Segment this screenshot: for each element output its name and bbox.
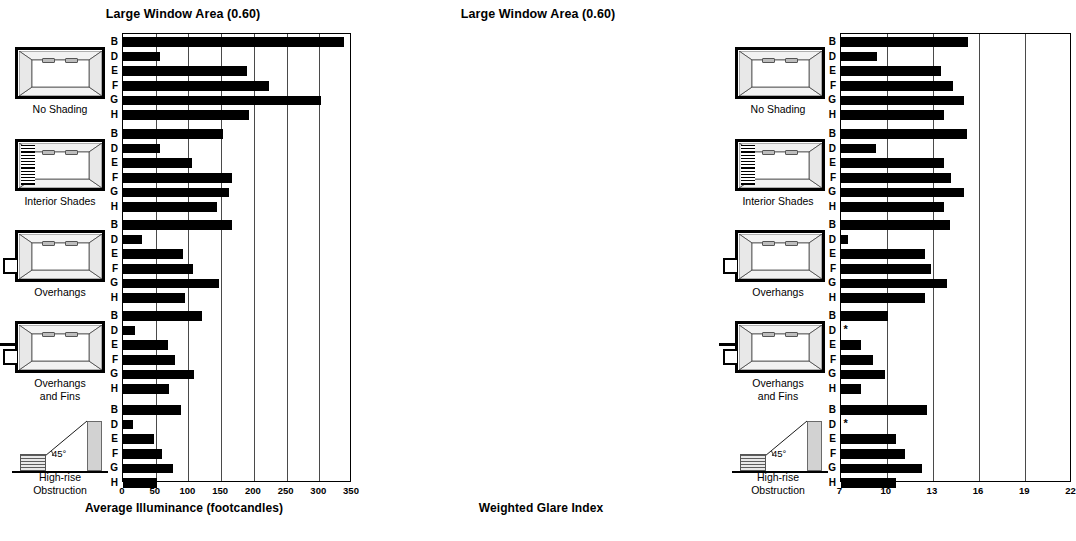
bar (841, 405, 927, 415)
category-label-d: D (104, 324, 118, 335)
chart-title-left: Large Window Area (0.60) (28, 7, 338, 21)
x-axis-tick: 300 (310, 485, 326, 496)
bar (841, 144, 876, 154)
bar (841, 81, 953, 91)
category-label-d: D (104, 142, 118, 153)
category-label-b: B (104, 310, 118, 321)
bar (841, 464, 923, 474)
overhang-icon (723, 349, 737, 365)
bar (123, 202, 217, 212)
room-plan-overhangs-fins-icon (735, 321, 825, 373)
illuminance-chart-panel: Large Window Area (0.60) Average Illumin… (0, 0, 366, 541)
group-label: No Shading (0, 103, 120, 116)
bar (123, 235, 142, 245)
category-label-b: B (104, 219, 118, 230)
x-axis-tick: 16 (973, 485, 984, 496)
bar (841, 52, 878, 62)
chart-title-right: Large Window Area (0.60) (378, 7, 698, 21)
bar (123, 370, 194, 380)
group-label-line: Overhangs (0, 377, 120, 390)
group-label-line: and Fins (718, 390, 838, 403)
interior-shade-hatch-icon (741, 145, 755, 185)
missing-data-marker: * (844, 323, 848, 335)
x-axis-tick: 250 (278, 485, 294, 496)
group-label-line: Overhangs (718, 377, 838, 390)
category-label-f: F (104, 262, 118, 273)
category-label-b: B (104, 128, 118, 139)
fin-icon (0, 343, 17, 346)
bar (123, 449, 162, 459)
bar (841, 110, 944, 120)
category-label-e: E (104, 65, 118, 76)
bar (123, 264, 193, 274)
category-label-b: B (104, 404, 118, 415)
x-axis-tick: 13 (927, 485, 938, 496)
category-label-b: B (822, 128, 836, 139)
bar (841, 355, 873, 365)
category-label-b: B (822, 219, 836, 230)
bar (123, 326, 135, 336)
group-label-line: High-rise (718, 471, 838, 484)
bar (841, 384, 861, 394)
category-label-e: E (104, 248, 118, 259)
overhang-icon (3, 258, 17, 274)
category-label-b: B (822, 36, 836, 47)
bar (123, 188, 229, 198)
group-label-line: Obstruction (718, 484, 838, 497)
x-axis-tick: 10 (880, 485, 891, 496)
overhang-icon (3, 349, 17, 365)
bar (841, 370, 886, 380)
gridline (1025, 34, 1026, 481)
plot-area-glare (840, 33, 1071, 482)
bar (841, 96, 964, 106)
bar (123, 420, 133, 430)
bar (841, 279, 947, 289)
room-plan-overhangs-icon (15, 230, 105, 282)
bar (841, 129, 967, 139)
fin-icon (719, 343, 737, 346)
bar (123, 81, 269, 91)
room-plan-overhangs-fins-icon (15, 321, 105, 373)
room-plan-no-shading-icon (15, 47, 105, 99)
interior-shade-hatch-icon (21, 145, 35, 185)
high-rise-obstruction-icon: 45° (12, 417, 108, 473)
x-axis-tick: 350 (343, 485, 359, 496)
bar (841, 202, 944, 212)
room-plan-no-shading-icon (735, 47, 825, 99)
category-label-b: B (822, 310, 836, 321)
bar (123, 293, 185, 303)
bar (841, 235, 849, 245)
bar (841, 449, 906, 459)
x-axis-tick: 150 (212, 485, 228, 496)
bar (123, 311, 202, 321)
group-label: Overhangs (0, 286, 120, 299)
obstruction-angle-label: 45° (772, 448, 786, 459)
group-label: Overhangsand Fins (0, 377, 120, 402)
gridline (979, 34, 980, 481)
bar (123, 405, 181, 415)
bar (841, 66, 941, 76)
bar (841, 249, 926, 259)
bar (841, 293, 926, 303)
x-axis-label-glare: Weighted Glare Index (376, 501, 706, 515)
bar (123, 37, 344, 47)
room-plan-interior-shades-icon (735, 139, 825, 191)
bar (841, 311, 889, 321)
bar (123, 110, 249, 120)
bar (841, 158, 944, 168)
plot-area-illuminance (122, 33, 351, 482)
bar (123, 340, 168, 350)
x-axis-tick: 100 (179, 485, 195, 496)
x-axis-tick: 50 (149, 485, 160, 496)
bar (841, 434, 896, 444)
x-axis-tick: 0 (119, 485, 124, 496)
group-label: Interior Shades (718, 195, 838, 208)
bar (123, 355, 175, 365)
bar (123, 434, 154, 444)
bar (123, 464, 173, 474)
bar (123, 173, 232, 183)
bar (841, 340, 861, 350)
x-axis-tick: 200 (245, 485, 261, 496)
bar (123, 249, 183, 259)
bar (123, 158, 192, 168)
